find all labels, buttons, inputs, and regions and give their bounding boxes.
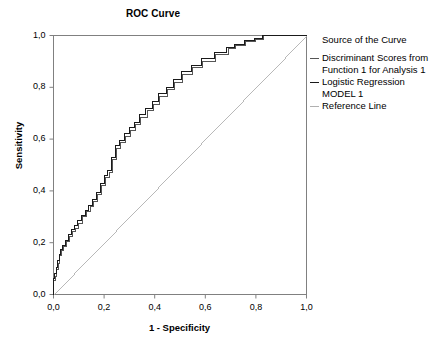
y-tick-label: 0,8	[6, 81, 46, 91]
y-tick-label: 0,6	[6, 133, 46, 143]
x-tick-label: 0,6	[185, 302, 225, 312]
legend: Source of the Curve Discriminant Scores …	[310, 34, 448, 113]
curve-series-layer	[54, 36, 307, 295]
y-tick-label: 0,4	[6, 185, 46, 195]
x-tick-label: 1,0	[287, 302, 327, 312]
legend-label: Discriminant Scores from Function 1 for …	[322, 52, 448, 75]
legend-line-icon	[310, 82, 319, 83]
x-tick-label: 0,0	[34, 302, 74, 312]
x-tick-label: 0,2	[84, 302, 124, 312]
legend-entry: Reference Line	[310, 100, 448, 112]
y-axis-title: Sensitivity	[13, 106, 24, 186]
x-tick-label: 0,4	[135, 302, 175, 312]
legend-line-icon	[310, 106, 319, 107]
legend-line-icon	[310, 58, 319, 59]
legend-label: Reference Line	[322, 100, 448, 112]
y-tick-label: 0,0	[6, 289, 46, 299]
y-tick-label: 0,2	[6, 237, 46, 247]
x-axis-title: 1 - Specificity	[53, 322, 306, 333]
series-path-2	[54, 36, 307, 295]
legend-label: Logistic Regression MODEL 1	[322, 76, 448, 99]
legend-title: Source of the Curve	[322, 34, 448, 45]
x-tick-label: 0,8	[236, 302, 276, 312]
legend-entries: Discriminant Scores from Function 1 for …	[310, 52, 448, 112]
legend-entry: Logistic Regression MODEL 1	[310, 76, 448, 99]
roc-chart: ROC Curve Sensitivity 1 - Specificity 0,…	[0, 0, 448, 343]
legend-entry: Discriminant Scores from Function 1 for …	[310, 52, 448, 75]
y-tick-label: 1,0	[6, 30, 46, 40]
